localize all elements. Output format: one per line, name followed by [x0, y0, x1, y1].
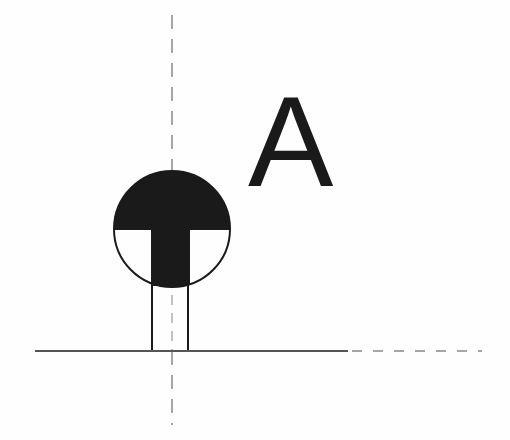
diagram-canvas: A	[0, 0, 510, 440]
section-marker-circle	[110, 168, 234, 292]
marker-t-stem-fill	[151, 228, 190, 292]
marker-stem	[152, 285, 188, 351]
section-marker-diagram: A	[0, 0, 510, 440]
marker-upper-fill	[110, 168, 234, 230]
section-label: A	[248, 70, 334, 213]
